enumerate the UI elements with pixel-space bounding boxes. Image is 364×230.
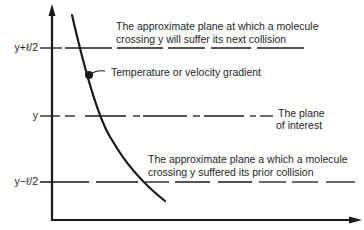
upper-plane-label-line1: The approximate plane at which a molecul… [116,20,319,33]
upper-plane-label-line2: crossing y will suffer its next collisio… [116,33,286,46]
tick-label-middle: y [2,109,38,121]
gradient-label: Temperature or velocity gradient [111,66,261,79]
x-axis-arrow-icon [349,217,362,224]
x-axis [51,217,362,224]
tick-label-upper: y+ℓ/2 [2,41,38,53]
y-axis-arrow-icon [49,4,56,16]
gradient-leader-line [92,71,105,73]
plane-interest-label-line2: of interest [276,119,322,132]
y-axis [49,4,56,220]
lower-plane-label-line2: crossing y suffered its prior collision [148,166,314,179]
tick-label-lower: y−ℓ/2 [2,175,38,187]
mean-free-path-diagram: y+ℓ/2 y y−ℓ/2 The approximate plane at w… [0,0,364,230]
lower-plane-label-line1: The approximate plane a which a molecule [148,153,348,166]
gradient-point-icon [85,71,93,79]
